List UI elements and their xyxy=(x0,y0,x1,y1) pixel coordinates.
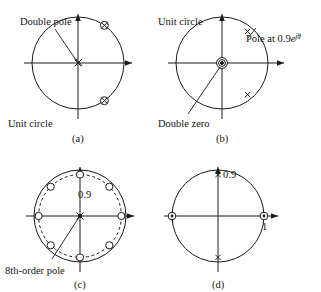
axes-a xyxy=(24,14,132,119)
zero-c-135deg xyxy=(47,183,54,190)
label-double-pole-a: Double pole xyxy=(20,16,72,27)
panel-c: 0.9 8th-order pole (c) xyxy=(0,146,160,292)
panel-c-plot: 0.9 8th-order pole (c) xyxy=(0,146,160,292)
panel-b: Unit circle Double zero Pole at 0.9ejθ (… xyxy=(160,0,321,146)
zero-c-270deg xyxy=(76,254,83,261)
label-pole-at-b: Pole at 0.9ejθ xyxy=(246,33,301,44)
label-8th-order-pole-c: 8th-order pole xyxy=(5,265,65,276)
panel-d-plot: 0.9 1 (d) xyxy=(160,146,321,292)
label-pole-at-value: 0.9 xyxy=(278,33,291,44)
panel-d: 0.9 1 (d) xyxy=(160,146,321,292)
zero-c-45deg xyxy=(106,183,113,190)
leader-double-zero-b xyxy=(188,67,220,114)
label-radius-09-c: 0.9 xyxy=(78,189,91,200)
panel-b-plot: Unit circle Double zero Pole at 0.9ejθ (… xyxy=(160,0,321,146)
marker-double-zero-origin-b xyxy=(217,58,228,69)
panel-a-plot: Double pole Unit circle (a) xyxy=(0,0,160,146)
marker-pole-lower-b xyxy=(245,92,250,97)
caption-c: (c) xyxy=(74,279,86,291)
label-pole-at-exponent-theta: θ xyxy=(297,33,301,41)
marker-zero-minus1-d xyxy=(168,212,176,220)
label-pole-at-prefix: Pole at xyxy=(246,33,278,44)
zero-c-90deg xyxy=(76,171,83,178)
marker-zero-plus1-d xyxy=(260,212,268,220)
zero-c-315deg xyxy=(106,242,113,249)
label-unit-circle-b: Unit circle xyxy=(158,16,203,27)
leader-double-pole-a xyxy=(55,29,77,62)
label-double-zero-b: Double zero xyxy=(158,118,210,129)
label-zero-radius-d: 1 xyxy=(262,221,267,232)
zero-c-225deg xyxy=(47,242,54,249)
label-unit-circle-a: Unit circle xyxy=(8,118,53,129)
panel-a: Double pole Unit circle (a) xyxy=(0,0,160,146)
zero-c-0deg xyxy=(118,212,125,219)
marker-circle-x-lower-a xyxy=(100,97,108,105)
caption-d: (d) xyxy=(212,279,225,291)
marker-circle-x-upper-a xyxy=(100,21,108,29)
caption-a: (a) xyxy=(72,133,84,145)
leader-8th-order-pole-c xyxy=(52,218,79,259)
pole-zero-figure: Double pole Unit circle (a) xyxy=(0,0,321,292)
label-pole-radius-d: 0.9 xyxy=(223,169,236,180)
axes-d xyxy=(164,167,278,272)
zero-c-180deg xyxy=(35,212,42,219)
caption-b: (b) xyxy=(216,133,229,145)
